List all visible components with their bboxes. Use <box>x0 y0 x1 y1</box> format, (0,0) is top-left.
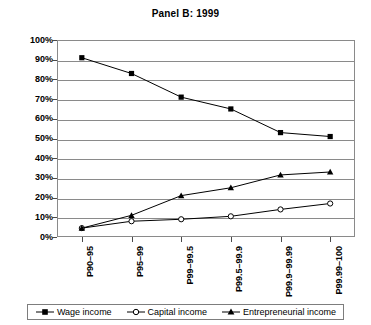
x-axis-tick-mark <box>181 237 182 242</box>
x-axis-tick-label: P99.99–100 <box>335 246 344 295</box>
data-point-marker <box>328 134 333 139</box>
data-point-marker <box>328 201 333 206</box>
x-axis-tick-label: P99.5–99.9 <box>235 246 244 292</box>
x-axis-tick-label: P99–99.5 <box>186 246 195 285</box>
data-point-marker <box>228 106 233 111</box>
series-entrepreneurial-income <box>79 169 334 231</box>
legend-marker-filled-square-icon <box>35 307 55 317</box>
series-capital-income <box>79 201 333 231</box>
y-axis-tick-label: 0% <box>3 233 53 242</box>
data-point-marker <box>278 207 283 212</box>
y-axis-tick-label: 10% <box>3 213 53 222</box>
legend-marker-filled-triangle-icon <box>221 307 241 317</box>
legend-item[interactable]: Capital income <box>126 307 208 317</box>
legend-marker-open-circle-icon <box>126 307 146 317</box>
series-layer <box>57 40 355 237</box>
y-axis-tick-label: 60% <box>3 114 53 123</box>
series-line <box>82 58 330 137</box>
y-axis-tick-label: 40% <box>3 154 53 163</box>
x-axis-tick-mark <box>231 237 232 242</box>
data-point-marker <box>79 55 84 60</box>
legend-item-label: Capital income <box>148 307 208 317</box>
y-axis-tick-label: 100% <box>3 36 53 45</box>
x-axis-tick-mark <box>281 237 282 242</box>
series-line <box>82 172 330 228</box>
legend-item-label: Entrepreneurial income <box>243 307 336 317</box>
chart-container: Panel B: 1999 0%10%20%30%40%50%60%70%80%… <box>0 0 371 325</box>
y-axis-tick-label: 20% <box>3 193 53 202</box>
data-point-marker <box>179 95 184 100</box>
chart-legend: Wage incomeCapital incomeEntrepreneurial… <box>27 304 344 320</box>
data-point-marker <box>278 130 283 135</box>
data-point-marker <box>128 212 134 218</box>
data-point-marker <box>129 71 134 76</box>
x-axis-tick-label: P90–95 <box>86 246 95 277</box>
y-axis-tick-label: 70% <box>3 95 53 104</box>
x-axis-tick-label: P95–99 <box>136 246 145 277</box>
series-line <box>82 204 330 229</box>
x-axis-tick-mark <box>330 237 331 242</box>
y-axis-tick-label: 50% <box>3 134 53 143</box>
chart-title: Panel B: 1999 <box>0 8 371 19</box>
data-point-marker <box>129 219 134 224</box>
legend-item-label: Wage income <box>57 307 112 317</box>
x-axis-tick-label: P99.9–99.99 <box>285 246 294 297</box>
legend-item[interactable]: Entrepreneurial income <box>221 307 336 317</box>
data-point-marker <box>228 214 233 219</box>
data-point-marker <box>179 217 184 222</box>
x-axis-tick-mark <box>82 237 83 242</box>
y-axis-tick-label: 30% <box>3 173 53 182</box>
legend-item[interactable]: Wage income <box>35 307 112 317</box>
y-axis-tick-label: 80% <box>3 75 53 84</box>
y-axis-tick-mark <box>52 237 57 238</box>
y-axis-tick-label: 90% <box>3 55 53 64</box>
x-axis-tick-mark <box>132 237 133 242</box>
series-wage-income <box>79 55 333 139</box>
